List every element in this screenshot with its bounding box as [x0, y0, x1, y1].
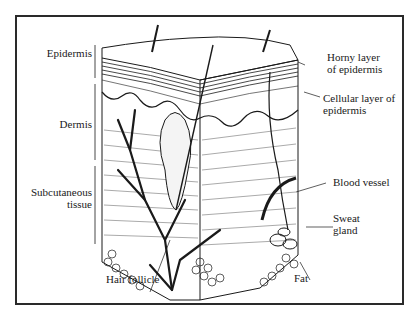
label-fat: Fat [294, 272, 308, 284]
label-sweat-1: Sweat [333, 212, 360, 224]
label-horny-layer-1: Horny layer [327, 51, 380, 63]
label-epidermis: Epidermis [24, 47, 92, 59]
blood-vessel-right [262, 178, 296, 220]
label-cellular-layer-1: Cellular layer of [323, 92, 395, 104]
sweat-gland-coil [270, 228, 297, 249]
label-horny-layer-2: of epidermis [327, 63, 382, 75]
right-face-outline [200, 60, 298, 300]
label-subcutaneous-2: tissue [20, 198, 92, 210]
label-subcutaneous-1: Subcutaneous [20, 186, 92, 198]
label-hair-follicle: Hair follicle [106, 273, 159, 285]
label-cellular-layer-2: epidermis [323, 104, 366, 116]
label-blood-vessel: Blood vessel [333, 176, 390, 188]
sweat-duct [269, 72, 288, 230]
label-sweat-2: gland [333, 224, 357, 236]
label-dermis: Dermis [24, 118, 92, 130]
